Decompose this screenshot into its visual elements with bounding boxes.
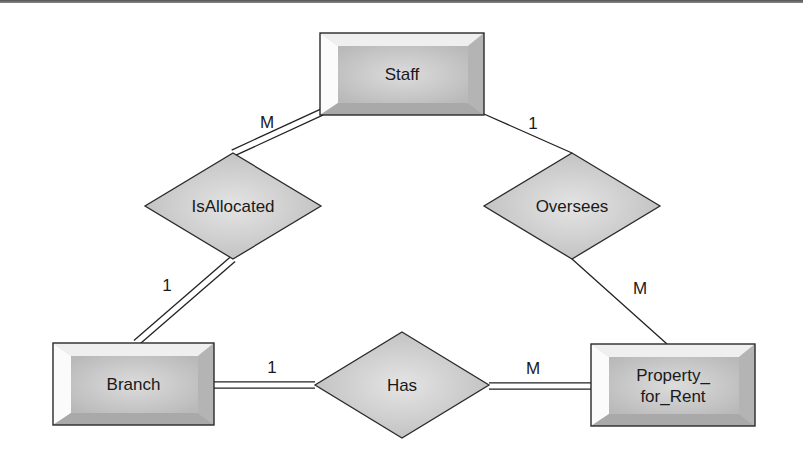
relationship-label: Oversees <box>536 197 609 216</box>
cardinality-label: 1 <box>267 358 276 377</box>
cardinality-label: M <box>260 113 274 132</box>
connection-isallocated-branch <box>134 257 235 346</box>
connection-branch-has <box>214 382 315 388</box>
relationships-layer: IsAllocatedOverseesHas <box>145 153 660 438</box>
entity-label: Property_ <box>636 366 710 385</box>
entity-property_for_rent[interactable]: Property_for_Rent <box>591 344 755 426</box>
connection-has-property_for_rent <box>489 383 591 389</box>
entity-label: Staff <box>385 65 420 84</box>
relationship-label: Has <box>387 376 417 395</box>
entity-label: for_Rent <box>640 387 705 406</box>
relationship-has[interactable]: Has <box>315 332 489 438</box>
cardinality-label: M <box>633 279 647 298</box>
relationship-isallocated[interactable]: IsAllocated <box>145 153 321 259</box>
entity-staff[interactable]: Staff <box>320 33 484 115</box>
entity-branch[interactable]: Branch <box>53 343 214 425</box>
relationship-oversees[interactable]: Oversees <box>484 153 660 259</box>
connection-staff-isallocated <box>232 109 324 156</box>
er-diagram: IsAllocatedOverseesHas StaffBranchProper… <box>0 0 803 466</box>
relationship-label: IsAllocated <box>191 197 274 216</box>
cardinality-label: M <box>526 359 540 378</box>
cardinality-label: 1 <box>162 276 171 295</box>
entity-label: Branch <box>107 375 161 394</box>
connection-oversees-property_for_rent <box>572 259 667 344</box>
cardinality-label: 1 <box>528 114 537 133</box>
